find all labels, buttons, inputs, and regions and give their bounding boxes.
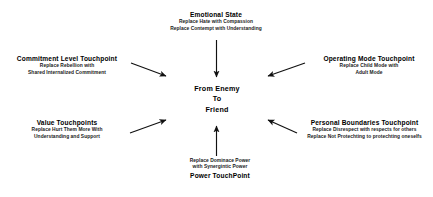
node-power-touchpoint-title: Power TouchPoint [155, 172, 285, 180]
node-personal-boundaries-touchpoint-title: Personal Boundaries Touchpoint [296, 119, 433, 127]
center-line-3: Friend [165, 105, 269, 115]
node-personal-boundaries-touchpoint-line-1: Replace Disrespect with respects for oth… [296, 127, 433, 133]
node-center-from-enemy-to-friend: From Enemy To Friend [165, 84, 269, 115]
center-line-2: To [165, 94, 269, 104]
node-value-touchpoints-title: Value Touchpoints [6, 119, 128, 127]
node-power-touchpoint: Replace Dominace Power with Synergintic … [155, 158, 285, 180]
node-operating-mode-touchpoint: Operating Mode Touchpoint Replace Child … [308, 55, 430, 76]
node-power-touchpoint-line-2: with Synergintic Power [155, 164, 285, 170]
center-line-1: From Enemy [165, 84, 269, 94]
arrow-from-commitment-level [131, 63, 166, 76]
node-commitment-level-touchpoint-line-2: Shared Internalized Commitment [4, 70, 130, 76]
node-personal-boundaries-touchpoint-line-2: Replace Not Protechting to protechting o… [296, 134, 433, 140]
node-operating-mode-touchpoint-title: Operating Mode Touchpoint [308, 55, 430, 63]
node-emotional-state: Emotional State Replace Hate with Compas… [136, 11, 296, 32]
node-commitment-level-touchpoint-title: Commitment Level Touchpoint [4, 55, 130, 63]
node-value-touchpoints-line-2: Understanding and Support [6, 134, 128, 140]
node-emotional-state-title: Emotional State [136, 11, 296, 19]
node-personal-boundaries-touchpoint: Personal Boundaries Touchpoint Replace D… [296, 119, 433, 140]
node-operating-mode-touchpoint-line-2: Adult Mode [308, 70, 430, 76]
node-value-touchpoints: Value Touchpoints Replace Hurt Them More… [6, 119, 128, 140]
arrow-from-operating-mode [268, 63, 305, 76]
arrow-from-personal-boundaries [268, 120, 297, 133]
node-commitment-level-touchpoint: Commitment Level Touchpoint Replace Rebe… [4, 55, 130, 76]
diagram-canvas: Emotional State Replace Hate with Compas… [0, 0, 433, 197]
arrow-from-value-touchpoints [130, 120, 166, 133]
node-emotional-state-line-2: Replace Contempt with Understanding [136, 26, 296, 32]
